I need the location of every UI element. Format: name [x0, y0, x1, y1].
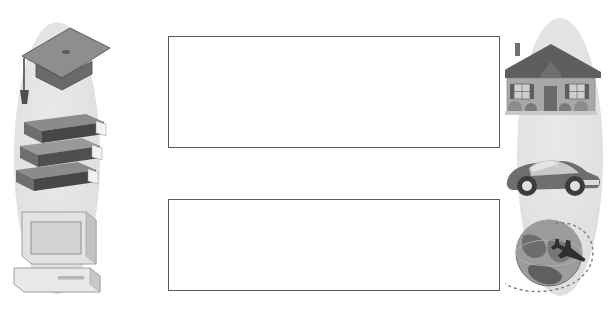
figure-root — [0, 0, 613, 313]
book-stack-icon — [16, 114, 106, 191]
unemployment-plot-area — [168, 199, 500, 291]
earnings-plot-area — [168, 36, 500, 148]
computer-icon — [14, 212, 100, 292]
lifestyle-illustration-svg — [505, 0, 613, 313]
education-illustration-svg — [0, 0, 118, 313]
graduation-cap-icon — [20, 28, 110, 104]
house-icon — [505, 43, 601, 115]
globe-airplane-icon — [505, 220, 593, 292]
chart-block — [118, 0, 508, 313]
car-icon — [507, 160, 600, 196]
education-illustration — [0, 0, 118, 313]
lifestyle-illustration — [505, 0, 613, 313]
